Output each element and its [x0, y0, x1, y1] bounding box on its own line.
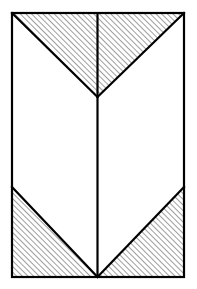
figure-canvas [0, 0, 197, 289]
geometric-figure [0, 0, 197, 289]
